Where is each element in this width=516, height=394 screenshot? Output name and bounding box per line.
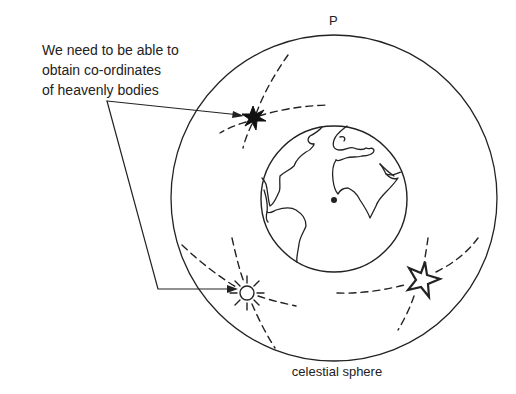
filled-star-coordinate-arcs (220, 55, 327, 148)
outline-star-icon (408, 262, 440, 297)
observer-dot (331, 197, 337, 203)
arrowhead-to-sun (227, 285, 238, 293)
caption-connector (107, 101, 240, 289)
caption-line: We need to be able to (42, 40, 179, 60)
celestial-sphere-label: celestial sphere (0, 364, 516, 379)
caption-text: We need to be able to obtain co-ordinate… (42, 40, 179, 100)
filled-star-icon (242, 106, 266, 130)
caption-line: obtain co-ordinates (42, 60, 179, 80)
caption-line: of heavenly bodies (42, 80, 179, 100)
outline-star-coordinate-arcs (337, 238, 478, 330)
sun-icon (230, 276, 264, 310)
sun-coordinate-arcs (182, 238, 296, 348)
pole-label: P (329, 13, 338, 28)
